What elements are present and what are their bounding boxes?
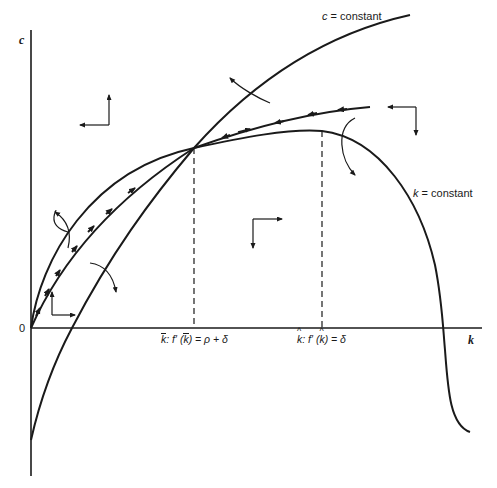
k-hat-sep: : f′ ( [302,333,319,345]
k-hat-symbol-2: k [319,334,324,345]
k-bar-symbol: k [161,334,166,345]
direction-arrows-upper-left [80,95,109,125]
origin-label: 0 [19,323,25,334]
k-hat-symbol: k [297,334,302,345]
c-axis-label: c [19,34,24,46]
k-hat-rest: ) = δ [325,333,346,345]
saddle-path-left [31,148,194,328]
crossing-arrow-k-constant [342,118,355,175]
crossing-arrow-left [54,211,68,232]
saddle-path-left-arrows [36,188,135,316]
direction-arrows-upper-right [388,107,416,135]
direction-arrows-lower-left [52,292,75,315]
k-bar-sep: : f′ ( [166,333,183,345]
k-axis-label: k [468,334,474,346]
direction-arrows-middle [253,219,282,248]
saddle-path-right-arrows [222,2,347,138]
k-bar-label: k: f′ (k) = ρ + δ [161,334,228,345]
k-constant-label-text: = constant [419,187,473,199]
k-constant-curve [31,130,470,432]
k-bar-rest: ) = ρ + δ [189,333,228,345]
k-constant-label: k = constant [413,188,473,199]
phase-diagram [0,0,497,488]
c-constant-label-text: = constant [328,10,382,22]
c-constant-label: c = constant [322,11,382,22]
c-constant-curve [31,15,410,440]
k-bar-symbol-2: k [183,334,188,345]
k-hat-label: k: f′ (k) = δ [297,334,346,345]
